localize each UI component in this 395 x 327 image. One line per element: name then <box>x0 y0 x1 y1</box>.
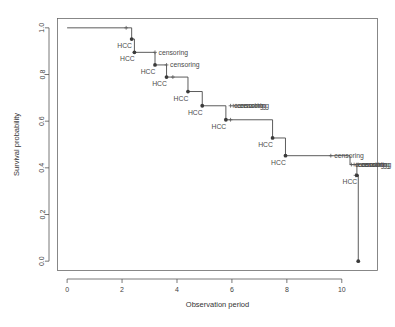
plot-frame <box>58 19 378 271</box>
axis-title-layer: Observation periodSurvival probability <box>12 113 249 309</box>
survival-step-line <box>67 28 358 261</box>
x-axis-tick-label: 8 <box>285 286 289 293</box>
event-point <box>356 259 360 263</box>
event-point <box>355 173 359 177</box>
censoring-label: censoring <box>170 61 200 69</box>
event-point <box>153 63 157 67</box>
censoring-marker <box>153 50 157 54</box>
censoring-label: censoring <box>334 152 364 160</box>
event-label-hcc: HCC <box>141 68 156 75</box>
censoring-marker <box>229 118 233 122</box>
event-point <box>224 118 228 122</box>
y-axis-tick-label: 1.0 <box>39 23 46 33</box>
y-axis-tick-label: 0.0 <box>39 256 46 266</box>
event-label-hcc: HCC <box>212 123 227 130</box>
y-axis-tick-label: 0.6 <box>39 116 46 126</box>
x-axis-tick-label: 0 <box>65 286 69 293</box>
event-label-hcc: HCC <box>271 159 286 166</box>
kaplan-meier-plot: 02468100.00.20.40.60.81.0 HCCHCCHCCHCCHC… <box>0 0 395 327</box>
censoring-marker <box>329 154 333 158</box>
event-label-hcc: HCC <box>120 55 135 62</box>
event-label-hcc: HCC <box>188 109 203 116</box>
censoring-marker <box>171 75 175 79</box>
censoring-label: censoring <box>159 49 189 57</box>
event-label-hcc: HCC <box>343 178 358 185</box>
event-label-hcc: HCC <box>174 95 189 102</box>
x-axis-title: Observation period <box>186 300 249 309</box>
event-point <box>133 50 137 54</box>
censoring-marker <box>165 63 169 67</box>
event-label-hcc: HCC <box>258 141 273 148</box>
event-point <box>130 37 134 41</box>
event-point <box>271 136 275 140</box>
y-axis-title: Survival probability <box>12 113 21 176</box>
event-label-hcc: HCC <box>117 42 132 49</box>
survival-curve-layer <box>67 28 358 261</box>
censoring-marker <box>124 26 128 30</box>
event-point <box>284 154 288 158</box>
censoring-label: censoring <box>362 161 392 169</box>
y-axis-tick-label: 0.2 <box>39 210 46 220</box>
censoring-label: censoring <box>240 102 270 110</box>
y-axis-tick-label: 0.8 <box>39 70 46 80</box>
event-label-hcc: HCC <box>152 80 167 87</box>
x-axis-tick-label: 2 <box>120 286 124 293</box>
event-point <box>165 75 169 79</box>
x-axis-tick-label: 4 <box>175 286 179 293</box>
x-axis-tick-label: 6 <box>230 286 234 293</box>
x-axis-tick-label: 10 <box>338 286 346 293</box>
event-point <box>200 104 204 108</box>
y-axis-tick-label: 0.4 <box>39 163 46 173</box>
event-point <box>186 90 190 94</box>
marker-layer <box>124 26 360 263</box>
km-chart-svg: 02468100.00.20.40.60.81.0 HCCHCCHCCHCCHC… <box>0 0 395 327</box>
